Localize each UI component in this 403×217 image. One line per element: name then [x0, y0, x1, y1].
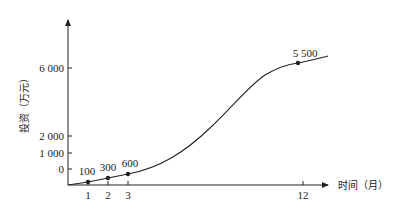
point-label: 5 500: [293, 47, 318, 59]
y-tick-label: 0: [59, 163, 65, 175]
x-tick-label: 2: [105, 189, 111, 201]
x-tick-label: 3: [125, 189, 131, 201]
x-axis-title: 时间（月）: [338, 179, 388, 191]
annotated-points: 100 300 600 5 500: [79, 47, 318, 184]
data-point: [106, 176, 110, 180]
data-point: [126, 172, 130, 176]
x-ticks: 1 2 3 12: [85, 181, 308, 201]
y-ticks: 6 000 2 000 1 000 0: [39, 62, 72, 175]
point-label: 100: [79, 165, 96, 177]
x-tick-label: 1: [85, 189, 91, 201]
point-label: 600: [122, 157, 139, 169]
y-tick-label: 6 000: [39, 62, 64, 74]
point-label: 300: [100, 161, 117, 173]
data-point: [86, 180, 90, 184]
investment-s-curve-chart: 6 000 2 000 1 000 0 1 2 3 12 时间（月） 投资（万元…: [0, 0, 403, 217]
y-tick-label: 1 000: [39, 147, 64, 159]
y-tick-label: 2 000: [39, 130, 64, 142]
data-point: [296, 61, 300, 65]
x-tick-label: 12: [298, 189, 309, 201]
y-axis-title: 投资（万元）: [18, 73, 30, 133]
